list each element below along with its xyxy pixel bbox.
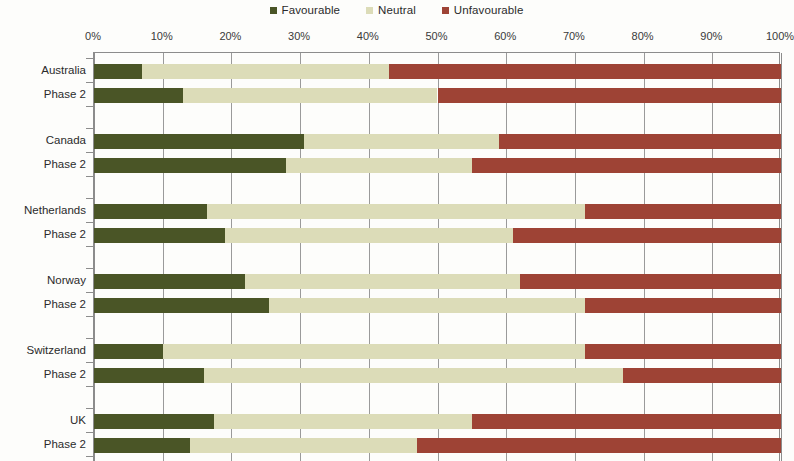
- y-axis-category-label: Phase 2: [44, 438, 86, 450]
- bar-segment-neutral: [286, 158, 471, 173]
- bar-segment-unfavourable: [472, 414, 781, 429]
- x-axis-tick-label: 20%: [219, 30, 241, 42]
- bar-row: [94, 438, 781, 453]
- y-axis-category-label: UK: [70, 414, 86, 426]
- bar-row: [94, 134, 781, 149]
- bar-segment-favourable: [94, 298, 269, 313]
- bar-row: [94, 414, 781, 429]
- bar-segment-unfavourable: [513, 228, 781, 243]
- x-axis-tick-label: 0%: [85, 30, 101, 42]
- bar-segment-favourable: [94, 88, 183, 103]
- legend-item-favourable: Favourable: [270, 4, 341, 16]
- x-axis-tick-label: 80%: [632, 30, 654, 42]
- x-axis-tick-label: 70%: [563, 30, 585, 42]
- gridline: [781, 53, 782, 461]
- y-axis-tick: [86, 386, 93, 387]
- y-axis-category-label: Phase 2: [44, 158, 86, 170]
- y-axis-tick: [86, 106, 93, 107]
- y-axis-tick: [86, 456, 93, 457]
- x-axis-tick-label: 100%: [766, 30, 794, 42]
- legend-item-label: Unfavourable: [454, 4, 524, 16]
- bar-segment-unfavourable: [623, 368, 781, 383]
- legend-swatch-icon: [366, 7, 373, 14]
- y-axis-tick: [86, 58, 93, 59]
- bar-row: [94, 368, 781, 383]
- gridline: [506, 53, 507, 461]
- bar-segment-favourable: [94, 158, 286, 173]
- y-axis-category-label: Netherlands: [24, 204, 86, 216]
- x-axis-tick-label: 60%: [494, 30, 516, 42]
- bar-segment-neutral: [142, 64, 389, 79]
- bar-row: [94, 158, 781, 173]
- y-axis-category-label: Phase 2: [44, 298, 86, 310]
- y-axis-tick: [86, 316, 93, 317]
- bar-segment-unfavourable: [438, 88, 782, 103]
- y-axis-tick: [86, 82, 93, 83]
- y-axis-tick: [86, 338, 93, 339]
- y-axis-tick: [86, 152, 93, 153]
- y-axis-category-labels: AustraliaPhase 2CanadaPhase 2Netherlands…: [0, 52, 93, 461]
- bar-segment-neutral: [183, 88, 437, 103]
- x-axis-tick-label: 90%: [700, 30, 722, 42]
- y-axis-category-label: Norway: [47, 274, 86, 286]
- bar-segment-favourable: [94, 228, 225, 243]
- legend-swatch-icon: [270, 7, 277, 14]
- bar-segment-neutral: [269, 298, 585, 313]
- bar-segment-neutral: [245, 274, 520, 289]
- bar-row: [94, 204, 781, 219]
- bar-segment-unfavourable: [585, 344, 781, 359]
- bar-row: [94, 344, 781, 359]
- gridline: [163, 53, 164, 461]
- bar-segment-favourable: [94, 414, 214, 429]
- bar-row: [94, 274, 781, 289]
- gridline: [712, 53, 713, 461]
- legend-item-label: Favourable: [282, 4, 341, 16]
- y-axis-tick: [86, 432, 93, 433]
- bar-segment-favourable: [94, 438, 190, 453]
- bar-segment-unfavourable: [472, 158, 781, 173]
- y-axis-category-label: Australia: [41, 64, 86, 76]
- y-axis-tick: [86, 176, 93, 177]
- x-axis-tick-label: 10%: [151, 30, 173, 42]
- gridline: [644, 53, 645, 461]
- y-axis-tick: [86, 408, 93, 409]
- bar-row: [94, 228, 781, 243]
- legend-item-neutral: Neutral: [366, 4, 416, 16]
- x-axis-tick-label: 40%: [357, 30, 379, 42]
- bar-segment-neutral: [225, 228, 514, 243]
- bar-segment-favourable: [94, 344, 163, 359]
- y-axis-tick: [86, 268, 93, 269]
- bar-row: [94, 88, 781, 103]
- bar-segment-favourable: [94, 64, 142, 79]
- gridline: [300, 53, 301, 461]
- y-axis-tick: [86, 128, 93, 129]
- bar-row: [94, 298, 781, 313]
- bar-segment-unfavourable: [499, 134, 781, 149]
- gridline: [575, 53, 576, 461]
- bar-segment-unfavourable: [389, 64, 781, 79]
- bar-segment-neutral: [214, 414, 472, 429]
- gridline: [438, 53, 439, 461]
- x-axis-tick-labels: 0%10%20%30%40%50%60%70%80%90%100%: [0, 30, 793, 48]
- y-axis-tick: [86, 246, 93, 247]
- bar-segment-unfavourable: [520, 274, 781, 289]
- gridline: [231, 53, 232, 461]
- y-axis-category-label: Phase 2: [44, 368, 86, 380]
- y-axis-tick: [86, 222, 93, 223]
- gridline: [369, 53, 370, 461]
- y-axis-tick: [86, 292, 93, 293]
- bar-segment-neutral: [207, 204, 585, 219]
- y-axis-tick: [86, 362, 93, 363]
- x-axis-tick-label: 30%: [288, 30, 310, 42]
- y-axis-category-label: Switzerland: [27, 344, 86, 356]
- y-axis-tick: [86, 198, 93, 199]
- y-axis-category-label: Phase 2: [44, 88, 86, 100]
- bar-segment-unfavourable: [417, 438, 781, 453]
- bar-segment-favourable: [94, 368, 204, 383]
- chart-legend: FavourableNeutralUnfavourable: [0, 4, 793, 16]
- x-axis-tick-label: 50%: [425, 30, 447, 42]
- bar-segment-unfavourable: [585, 204, 781, 219]
- y-axis-category-label: Phase 2: [44, 228, 86, 240]
- bar-segment-unfavourable: [585, 298, 781, 313]
